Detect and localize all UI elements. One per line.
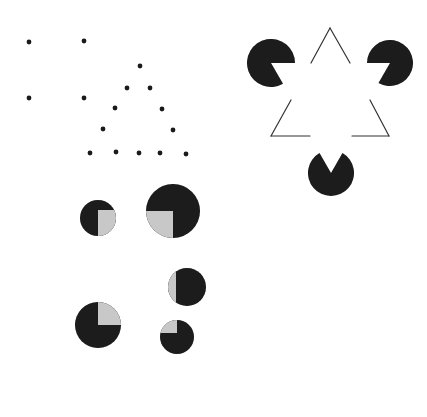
light-quadrant	[146, 211, 173, 238]
pacman-disc	[308, 153, 354, 196]
triangle-edge-segment	[370, 100, 389, 136]
dot	[160, 107, 165, 112]
light-quadrant	[168, 268, 176, 306]
dot	[82, 39, 87, 44]
dot	[138, 64, 143, 69]
dot-pattern-panel	[27, 39, 189, 157]
dot	[125, 86, 130, 91]
dot	[27, 96, 32, 101]
triangle-edge-segment	[271, 100, 291, 136]
pacman-discs	[247, 39, 413, 196]
quadrant-disc	[80, 200, 118, 237]
triangle-outline	[271, 28, 389, 136]
triangle-edge-segment	[311, 28, 330, 63]
light-quadrant	[98, 302, 121, 325]
dot	[82, 96, 87, 101]
pacman-disc	[247, 39, 295, 87]
dot	[158, 151, 163, 156]
dot	[148, 86, 153, 91]
light-quadrant	[160, 320, 177, 333]
dot	[114, 150, 119, 155]
dot	[101, 127, 106, 132]
pacman-disc	[367, 40, 413, 86]
kanizsa-triangle-panel	[247, 28, 413, 196]
triangle-edge-segment	[330, 28, 350, 63]
dot	[184, 152, 189, 157]
dot	[113, 106, 118, 111]
figure-canvas	[0, 0, 427, 417]
dot	[171, 128, 176, 133]
quadrant-disc	[160, 320, 194, 354]
dot	[27, 40, 32, 45]
quadrant-discs-panel	[75, 184, 206, 354]
quadrant-disc	[75, 302, 121, 348]
dot	[88, 151, 93, 156]
light-quadrant	[98, 210, 118, 237]
quadrant-disc	[146, 184, 200, 238]
quadrant-disc	[168, 268, 206, 306]
dot	[137, 151, 142, 156]
illusion-figure	[0, 0, 427, 417]
